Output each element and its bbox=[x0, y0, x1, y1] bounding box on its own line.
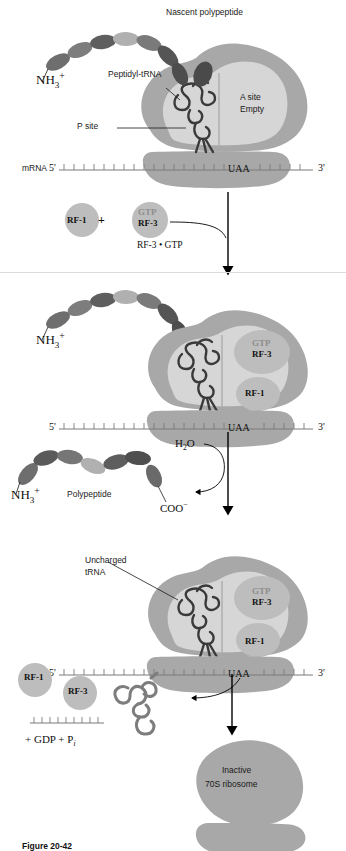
label-gdp-pi-products: + GDP + Pi bbox=[25, 733, 76, 748]
label-a-site: A site bbox=[240, 93, 261, 103]
label-uncharged-trna: tRNA bbox=[85, 568, 105, 578]
label-3prime-step1: 3' bbox=[318, 162, 325, 173]
step1-to-step2-arrow bbox=[170, 190, 280, 280]
label-plus-sign: + bbox=[98, 213, 105, 228]
released-mrna-strand bbox=[30, 717, 104, 723]
label-rf1-reagent: RF-1 bbox=[67, 215, 87, 225]
curved-arrow-into-shaft bbox=[170, 222, 226, 238]
label-rf1-step3: RF-1 bbox=[245, 636, 265, 646]
label-uncharged: Uncharged bbox=[85, 556, 127, 566]
curved-arrow-release bbox=[192, 678, 240, 698]
inactive-small-subunit-shape bbox=[196, 823, 306, 851]
label-5prime-step1: 5' bbox=[49, 162, 56, 173]
label-3prime-step2: 3' bbox=[318, 421, 325, 432]
step2-to-step3-arrow bbox=[170, 430, 290, 520]
inactive-70s-ribosome bbox=[150, 735, 310, 845]
figure-caption: Figure 20-42 bbox=[22, 841, 72, 851]
label-a-site-empty: Empty bbox=[240, 105, 264, 115]
label-stop-codon-step1: UAA bbox=[228, 163, 250, 174]
label-rf1-step2: RF-1 bbox=[245, 388, 265, 398]
label-nh3-step1: NH3+ bbox=[36, 70, 65, 90]
label-inactive: Inactive bbox=[222, 766, 251, 776]
label-gtp-reagent: GTP bbox=[138, 207, 157, 217]
label-mrna: mRNA bbox=[22, 164, 47, 174]
label-3prime-step3: 3' bbox=[318, 667, 325, 678]
label-nh3-step3: NH3+ bbox=[11, 485, 40, 505]
label-nascent-polypeptide: Nascent polypeptide bbox=[166, 8, 243, 18]
label-gtp-step3: GTP bbox=[252, 586, 271, 596]
label-polypeptide: Polypeptide bbox=[67, 490, 111, 500]
figure-canvas: Nascent polypeptide NH3+ Peptidyl-tRNA P… bbox=[0, 0, 346, 851]
label-gtp-step2: GTP bbox=[252, 338, 271, 348]
label-rf1-released: RF-1 bbox=[24, 672, 44, 682]
label-rf3-step3: RF-3 bbox=[252, 597, 272, 607]
step3-ribosome-complex bbox=[0, 548, 346, 668]
label-peptidyl-trna: Peptidyl-tRNA bbox=[108, 70, 161, 80]
label-5prime-step2: 5' bbox=[49, 421, 56, 432]
panel-divider bbox=[0, 272, 346, 273]
label-rf3-released: RF-3 bbox=[68, 686, 88, 696]
step2-ribosome-complex bbox=[0, 290, 346, 415]
label-p-site: P site bbox=[77, 122, 98, 132]
label-rf3-reagent: RF-3 bbox=[138, 218, 158, 228]
released-trna-shape bbox=[115, 673, 157, 734]
peptide-bead-chain bbox=[14, 447, 165, 489]
label-70s-ribosome: 70S ribosome bbox=[205, 780, 257, 790]
label-rf3-step2: RF-3 bbox=[252, 349, 272, 359]
curved-arrow-water-to-coo bbox=[196, 444, 224, 492]
